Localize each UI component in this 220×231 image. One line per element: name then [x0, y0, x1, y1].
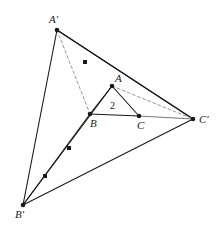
- vertex-dot-C: [137, 114, 142, 119]
- segment-A'-B': [23, 30, 57, 205]
- vertex-label-a-prime: A′: [49, 14, 58, 25]
- midpoint-dots-group: [43, 60, 87, 178]
- vertex-dot-B: [88, 112, 93, 117]
- solid-segments-group: [23, 30, 193, 205]
- midpoint-dot-midpoint-b-prime-a: [67, 146, 71, 150]
- vertex-dot-A-prime: [55, 28, 60, 33]
- segment-B'-C': [23, 119, 193, 205]
- vertex-dot-B-prime: [21, 203, 26, 208]
- vertex-dot-C-prime: [191, 117, 196, 122]
- segment-B-C: [90, 114, 139, 116]
- segment-A-B: [90, 86, 112, 114]
- segment-A'-A-C-C': [57, 30, 193, 119]
- geometry-figure: A′ B′ C′ A B C 2: [0, 0, 220, 231]
- side-length-label-2: 2: [110, 101, 115, 111]
- vertex-label-a: A: [115, 73, 122, 84]
- geometry-canvas: [0, 0, 220, 231]
- segment-A-C'-dashed: [112, 86, 193, 119]
- segment-A'-B-dashed: [57, 30, 90, 114]
- segment-A-C: [112, 86, 139, 116]
- vertex-label-c: C: [137, 120, 144, 131]
- midpoint-dot-midpoint-a-prime-c-prime: [83, 60, 87, 64]
- vertex-label-b-prime: B′: [15, 209, 24, 220]
- vertex-dot-A: [110, 84, 115, 89]
- segment-B'-B: [23, 114, 90, 205]
- vertex-label-c-prime: C′: [199, 114, 209, 125]
- midpoint-dot-midpoint-b-prime-b: [43, 174, 47, 178]
- vertex-label-b: B: [90, 118, 97, 129]
- segment-C-C': [139, 116, 193, 119]
